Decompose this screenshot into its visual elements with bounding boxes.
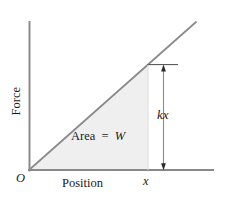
- origin-label: O: [16, 172, 25, 185]
- area-label-symbol: W: [115, 129, 125, 143]
- x-tick-label: x: [143, 175, 149, 188]
- area-label-text: Area =: [71, 129, 115, 143]
- kx-arrowhead-top: [161, 65, 166, 72]
- graph-canvas: [0, 0, 228, 201]
- area-label: Area = W: [71, 130, 125, 143]
- kx-label: kx: [157, 108, 169, 121]
- force-position-figure: Force Position O x kx Area = W: [0, 0, 228, 201]
- x-axis-label: Position: [62, 177, 103, 190]
- y-axis-label: Force: [10, 71, 23, 131]
